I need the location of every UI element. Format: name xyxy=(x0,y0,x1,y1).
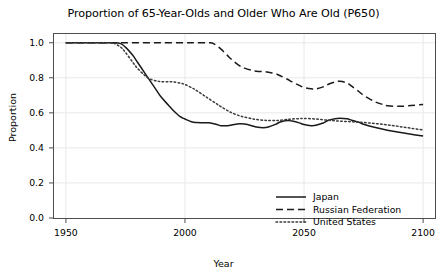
y-tick-label: 0.4 xyxy=(4,142,44,153)
series-line-russian-federation xyxy=(66,43,423,107)
y-tick-label: 0.0 xyxy=(4,212,44,223)
legend-label: United States xyxy=(313,216,376,227)
axis-ticks xyxy=(49,43,423,223)
x-tick-label: 2000 xyxy=(161,227,209,238)
gridlines xyxy=(54,34,435,218)
chart-figure: Proportion of 65-Year-Olds and Older Who… xyxy=(0,0,447,277)
plot-frame xyxy=(54,34,436,219)
y-tick-label: 1.0 xyxy=(4,37,44,48)
y-tick-label: 0.2 xyxy=(4,177,44,188)
x-tick-label: 1950 xyxy=(42,227,90,238)
legend-label: Russian Federation xyxy=(313,204,401,215)
y-tick-label: 0.6 xyxy=(4,107,44,118)
data-series xyxy=(66,43,423,136)
series-line-united-states xyxy=(66,43,423,130)
series-line-japan xyxy=(66,43,423,136)
x-tick-label: 2050 xyxy=(280,227,328,238)
y-tick-label: 0.8 xyxy=(4,72,44,83)
legend-label: Japan xyxy=(313,191,339,202)
x-tick-label: 2100 xyxy=(399,227,447,238)
